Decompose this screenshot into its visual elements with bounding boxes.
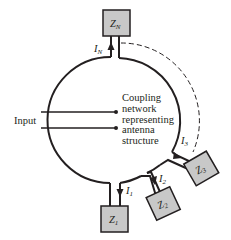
current-arrow-i1-icon [117,189,124,197]
antenna-coupling-network-diagram: ZN IN Input Coupling network representin… [0,0,231,240]
input-terminal-dot-bottom [114,126,118,130]
svg-text:antenna: antenna [122,124,155,135]
input-terminals [41,112,116,128]
current-arrow-i3-icon [173,152,182,159]
svg-text:network: network [122,103,157,114]
current-label-i1: I1 [125,185,133,198]
input-label: Input [14,115,36,126]
svg-text:Coupling: Coupling [122,92,162,103]
current-arrow-in-icon [108,42,115,50]
z1-leads [110,183,120,206]
input-terminal-dot-top [114,110,118,114]
current-label-in: IN [93,43,103,56]
current-label-i3: I3 [180,135,189,148]
svg-text:structure: structure [122,135,159,146]
network-description: Coupling network representing antenna st… [122,92,175,146]
current-label-i2: I2 [158,173,167,186]
